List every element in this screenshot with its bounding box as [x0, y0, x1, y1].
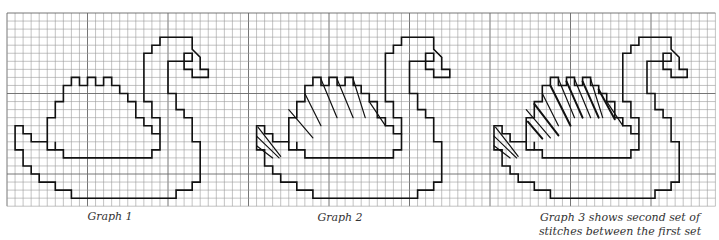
graph-3-caption-line-2: stitches between the first set — [530, 225, 710, 239]
second-stitch-line — [566, 81, 582, 117]
graph-3-caption: Graph 3 shows second set of stitches bet… — [530, 211, 710, 239]
graph-2-caption: Graph 2 — [290, 211, 390, 225]
swan-body-inner-line — [55, 134, 160, 158]
stitch-graph-diagram — [0, 0, 719, 240]
graph-3-caption-line-1: Graph 3 shows second set of — [530, 211, 710, 225]
second-stitch-line — [583, 81, 599, 117]
swan-tail-step — [289, 142, 297, 150]
second-stitch-line — [550, 85, 570, 125]
swan-tail-step — [47, 142, 55, 150]
graph-1-caption: Graph 1 — [60, 210, 160, 224]
